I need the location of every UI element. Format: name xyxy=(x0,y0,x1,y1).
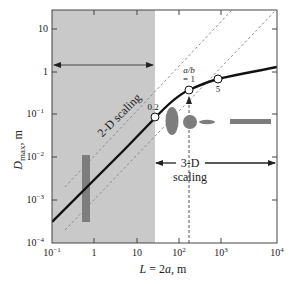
label-point-5: 5 xyxy=(216,84,221,94)
label-3d-scaling: scaling xyxy=(173,170,207,184)
circle-shape xyxy=(183,115,197,129)
svg-text:10−2: 10−2 xyxy=(27,150,45,162)
chart-svg: 0.2 a/b = 1 5 2-D scaling 3-D scaling 10… xyxy=(0,0,301,286)
label-3d: 3-D xyxy=(181,156,200,170)
flat-rectangle-shape xyxy=(230,119,271,124)
svg-text:10: 10 xyxy=(38,23,48,34)
svg-text:10−3: 10−3 xyxy=(27,193,45,205)
x-tick-labels: 10−1 1 10 102 103 104 xyxy=(43,246,284,258)
label-point-ab-eq: = 1 xyxy=(183,74,195,84)
tall-ellipse-shape xyxy=(166,107,179,135)
svg-text:1: 1 xyxy=(43,66,48,77)
svg-text:104: 104 xyxy=(270,246,284,258)
svg-text:10−1: 10−1 xyxy=(43,246,61,258)
label-point-0.2: 0.2 xyxy=(147,102,158,112)
svg-text:1: 1 xyxy=(92,247,97,258)
point-ratio-5 xyxy=(214,75,222,83)
point-ratio-1 xyxy=(185,86,193,94)
svg-text:102: 102 xyxy=(172,246,186,258)
flat-ellipse-shape xyxy=(199,120,215,124)
svg-text:10−4: 10−4 xyxy=(27,236,45,248)
svg-text:10: 10 xyxy=(132,247,142,258)
point-ratio-0.2 xyxy=(151,113,159,121)
svg-text:10−1: 10−1 xyxy=(27,107,45,119)
x-axis-title: L = 2a, m xyxy=(139,262,187,276)
y-axis-title: Dmax, m xyxy=(11,130,27,171)
y-tick-labels: 10 1 10−1 10−2 10−3 10−4 xyxy=(27,23,48,248)
svg-text:103: 103 xyxy=(214,246,228,258)
